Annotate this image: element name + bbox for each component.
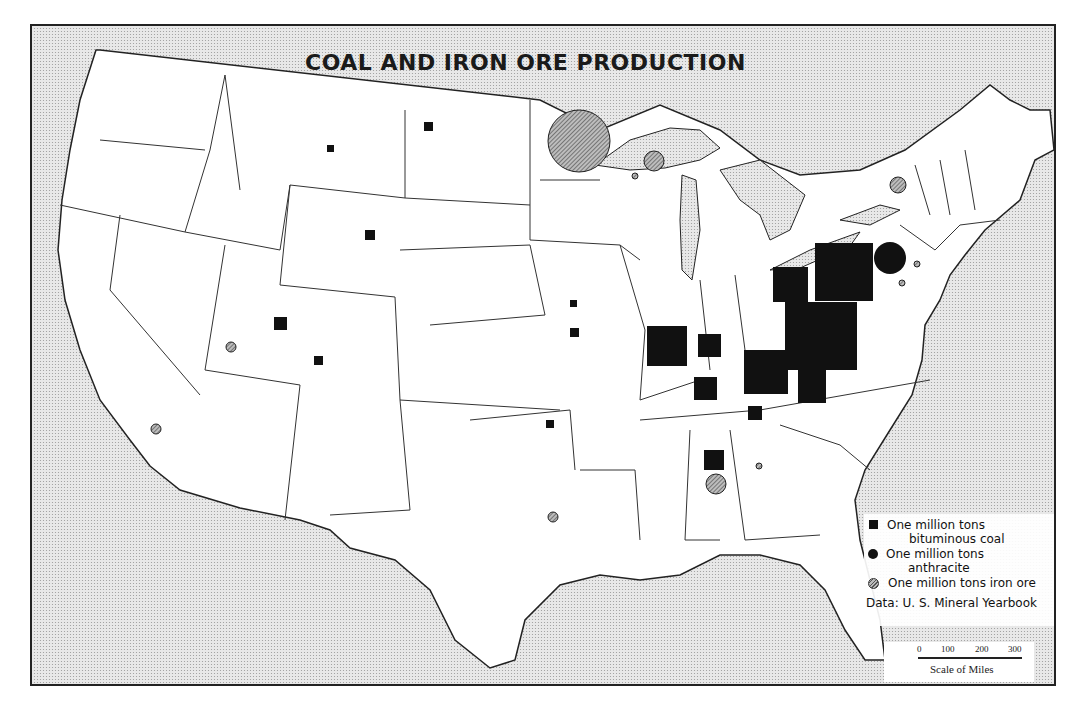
scale-line [918, 657, 1022, 659]
legend-item-coal: One million tonsbituminous coal [866, 518, 1056, 546]
map-title: COAL AND IRON ORE PRODUCTION [305, 50, 746, 75]
anthracite-symbol [874, 242, 906, 274]
scale-bar: 0 100 200 300 Scale of Miles [884, 642, 1034, 682]
legend: One million tonsbituminous coal One mill… [866, 518, 1056, 610]
hatched-circle-icon [868, 578, 879, 589]
black-circle-icon [868, 549, 878, 559]
legend-item-anthracite: One million tonsanthracite [866, 547, 1056, 575]
scale-label: Scale of Miles [930, 663, 994, 675]
black-square-icon [869, 520, 878, 529]
legend-item-iron-ore: One million tons iron ore [866, 576, 1056, 590]
data-source: Data: U. S. Mineral Yearbook [866, 596, 1056, 610]
